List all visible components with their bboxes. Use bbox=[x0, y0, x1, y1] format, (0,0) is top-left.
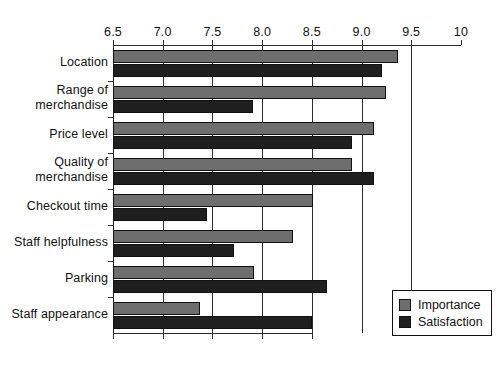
x-tick-label: 9.5 bbox=[402, 25, 420, 39]
category-tick-mark bbox=[108, 189, 113, 190]
x-tick-mark bbox=[113, 40, 114, 45]
x-tick-mark-bottom bbox=[113, 333, 114, 339]
x-tick-mark-bottom bbox=[163, 333, 164, 339]
bar-importance bbox=[113, 158, 352, 171]
legend-item: Satisfaction bbox=[399, 313, 483, 330]
x-tick-mark bbox=[262, 40, 263, 45]
category-tick-mark bbox=[108, 225, 113, 226]
bar-satisfaction bbox=[113, 136, 352, 149]
bar-importance bbox=[113, 86, 386, 99]
x-tick-label: 8.5 bbox=[303, 25, 321, 39]
axis-top bbox=[113, 45, 461, 46]
x-tick-label: 9.0 bbox=[353, 25, 371, 39]
category-label: Staff helpfulness bbox=[0, 235, 108, 250]
legend-swatch-importance bbox=[399, 299, 411, 311]
category-label: Quality of merchandise bbox=[0, 155, 108, 185]
bar-importance bbox=[113, 194, 313, 207]
category-tick-mark bbox=[108, 153, 113, 154]
legend-label: Satisfaction bbox=[418, 315, 483, 329]
bar-satisfaction bbox=[113, 100, 253, 113]
bar-importance bbox=[113, 266, 254, 279]
category-label: Parking bbox=[0, 271, 108, 286]
x-tick-mark bbox=[362, 40, 363, 45]
category-label: Location bbox=[0, 55, 108, 70]
x-tick-label: 7.5 bbox=[203, 25, 221, 39]
legend-label: Importance bbox=[418, 298, 481, 312]
x-tick-mark bbox=[312, 40, 313, 45]
x-tick-mark bbox=[411, 40, 412, 45]
x-tick-mark bbox=[461, 40, 462, 45]
bar-importance bbox=[113, 230, 293, 243]
legend-item: Importance bbox=[399, 296, 483, 313]
bar-satisfaction bbox=[113, 64, 382, 77]
x-tick-label: 7.0 bbox=[154, 25, 172, 39]
category-tick-mark bbox=[108, 261, 113, 262]
category-label: Price level bbox=[0, 127, 108, 142]
bar-satisfaction bbox=[113, 208, 207, 221]
legend-swatch-satisfaction bbox=[399, 316, 411, 328]
x-tick-mark bbox=[212, 40, 213, 45]
bar-importance bbox=[113, 302, 200, 315]
category-tick-mark bbox=[108, 81, 113, 82]
x-tick-mark bbox=[163, 40, 164, 45]
bar-satisfaction bbox=[113, 172, 374, 185]
x-tick-mark-bottom bbox=[212, 333, 213, 339]
x-tick-label: 6.5 bbox=[104, 25, 122, 39]
category-label: Staff appearance bbox=[0, 307, 108, 322]
x-tick-mark-bottom bbox=[262, 333, 263, 339]
category-tick-mark bbox=[108, 297, 113, 298]
bar-importance bbox=[113, 122, 374, 135]
category-tick-mark bbox=[108, 117, 113, 118]
x-tick-label: 10 bbox=[454, 25, 468, 39]
category-label: Range of merchandise bbox=[0, 83, 108, 113]
importance-satisfaction-bar-chart: 6.57.07.58.08.59.09.510 LocationRange of… bbox=[0, 0, 499, 372]
x-tick-mark-bottom bbox=[312, 333, 313, 339]
x-tick-label: 8.0 bbox=[253, 25, 271, 39]
bar-importance bbox=[113, 50, 398, 63]
category-label: Checkout time bbox=[0, 199, 108, 214]
chart-legend: ImportanceSatisfaction bbox=[392, 290, 492, 336]
bar-satisfaction bbox=[113, 244, 234, 257]
bar-satisfaction bbox=[113, 316, 312, 329]
bar-satisfaction bbox=[113, 280, 327, 293]
